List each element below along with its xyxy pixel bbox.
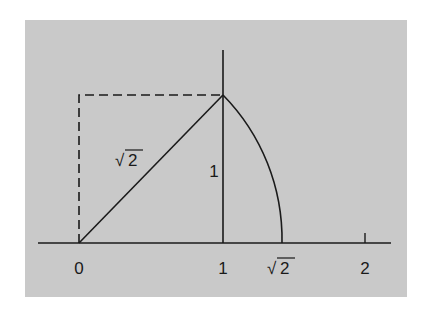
label-0: 0 bbox=[74, 259, 83, 278]
label-1-axis: 1 bbox=[218, 259, 227, 278]
diagonal-sqrt2 bbox=[79, 95, 223, 243]
label-diagonal-radical: √ bbox=[115, 151, 125, 170]
label-vertical-1: 1 bbox=[209, 162, 218, 181]
label-sqrt2-axis: 2 bbox=[280, 259, 289, 278]
arc-radius-sqrt2 bbox=[223, 95, 282, 243]
sqrt2-construction-diagram: 0 1 √ 2 2 √ 2 1 bbox=[0, 0, 422, 313]
label-diagonal-sqrt2: 2 bbox=[128, 151, 137, 170]
label-sqrt2-radical: √ bbox=[267, 259, 277, 278]
label-2: 2 bbox=[360, 259, 369, 278]
